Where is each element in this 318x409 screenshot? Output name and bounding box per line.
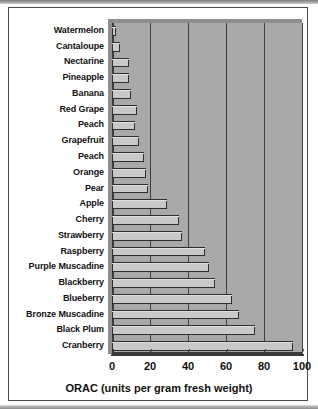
x-tick-label: 100 xyxy=(287,360,317,372)
category-label: Grapefruit xyxy=(61,135,104,145)
category-labels: WatermelonCantaloupeNectarinePineappleBa… xyxy=(11,19,106,354)
bar-highlight xyxy=(112,326,255,327)
category-label: Peach xyxy=(78,119,104,129)
bar-highlight xyxy=(112,27,116,28)
bar-highlight xyxy=(112,311,239,312)
scan-artifact-top xyxy=(0,0,318,4)
x-tick-label: 20 xyxy=(135,360,165,372)
category-label: Pear xyxy=(85,183,104,193)
x-tick-labels: 020406080100 xyxy=(89,360,318,376)
category-label: Bronze Muscadine xyxy=(26,309,104,319)
bar-series xyxy=(112,23,304,350)
category-label: Raspberry xyxy=(60,246,104,256)
scan-artifact-bottom xyxy=(0,405,318,409)
category-label: Cherry xyxy=(76,214,104,224)
bar-highlight xyxy=(112,279,215,280)
category-label: Blueberry xyxy=(63,293,104,303)
x-tick-label: 0 xyxy=(97,360,127,372)
x-tick-label: 40 xyxy=(173,360,203,372)
category-label: Banana xyxy=(72,88,104,98)
bar-highlight xyxy=(112,263,209,264)
bar-highlight xyxy=(112,232,182,233)
bar-highlight xyxy=(112,59,129,60)
category-label: Pineapple xyxy=(62,72,104,82)
category-label: Orange xyxy=(73,167,104,177)
bar-highlight xyxy=(112,74,129,75)
x-axis-title: ORAC (units per gram fresh weight) xyxy=(9,382,309,394)
category-label: Strawberry xyxy=(58,230,104,240)
category-label: Cranberry xyxy=(62,340,104,350)
bar-highlight xyxy=(112,185,148,186)
category-label: Peach xyxy=(78,151,104,161)
bar-highlight xyxy=(112,122,135,123)
category-label: Purple Muscadine xyxy=(29,261,104,271)
x-axis-line xyxy=(112,354,304,356)
chart-figure: WatermelonCantaloupeNectarinePineappleBa… xyxy=(8,7,308,401)
x-tick-label: 60 xyxy=(211,360,241,372)
category-label: Blackberry xyxy=(58,277,104,287)
category-label: Nectarine xyxy=(64,56,104,66)
bar-highlight xyxy=(112,43,120,44)
bar-highlight xyxy=(112,137,139,138)
bar-highlight xyxy=(112,169,146,170)
bar-highlight xyxy=(112,248,205,249)
bar-highlight xyxy=(112,106,137,107)
category-label: Black Plum xyxy=(56,324,104,334)
x-tick-label: 80 xyxy=(249,360,279,372)
bar-highlight xyxy=(112,216,179,217)
bar-highlight xyxy=(112,342,293,343)
category-label: Red Grape xyxy=(59,104,104,114)
category-label: Cantaloupe xyxy=(56,41,104,51)
category-label: Apple xyxy=(79,198,104,208)
bar-highlight xyxy=(112,295,232,296)
bar-highlight xyxy=(112,90,131,91)
bar-highlight xyxy=(112,153,144,154)
bar-highlight xyxy=(112,200,167,201)
category-label: Watermelon xyxy=(54,25,104,35)
